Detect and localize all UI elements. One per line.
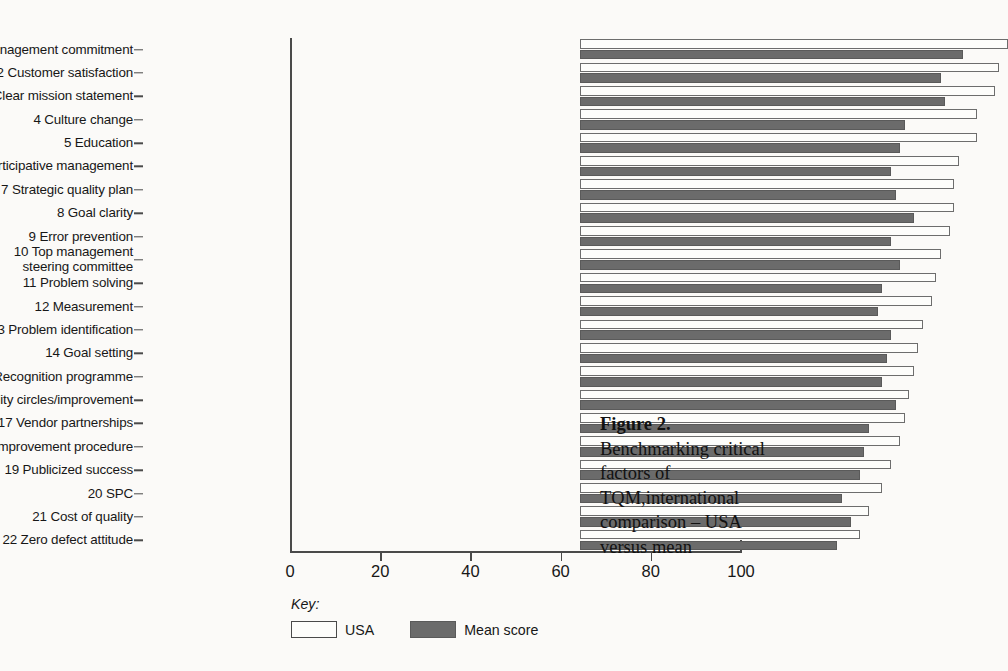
bar-usa [580, 273, 936, 283]
category-label: 3 Clear mission statement [0, 89, 133, 104]
category-label: 19 Publicized success [4, 463, 133, 478]
category-row: 16 Quality circles/improvement [290, 388, 741, 411]
category-tick-mark [134, 353, 143, 354]
category-label: 20 SPC [88, 486, 133, 501]
x-axis-tick-label: 80 [642, 562, 660, 581]
legend-title: Key: [291, 596, 574, 612]
category-label: 5 Education [64, 136, 133, 151]
bar-group [580, 38, 741, 61]
category-tick-mark [134, 516, 143, 517]
x-axis-tick [380, 551, 382, 561]
bar-group [580, 131, 741, 154]
bar-usa [580, 366, 914, 376]
bar-usa [580, 156, 959, 166]
category-tick-mark [134, 213, 143, 214]
category-tick-mark [134, 49, 143, 50]
bar-group [580, 318, 741, 341]
category-label: 11 Problem solving [23, 276, 133, 291]
bar-mean-score [580, 167, 891, 177]
category-row: 6 Participative management [290, 155, 741, 178]
bar-usa [580, 86, 995, 96]
category-row: 14 Goal setting [290, 342, 741, 365]
bar-mean-score [580, 120, 905, 130]
legend-label: Mean score [464, 622, 538, 638]
bar-group [580, 388, 741, 411]
bar-usa [580, 249, 941, 259]
category-row: 7 Strategic quality plan [290, 178, 741, 201]
category-label: 8 Goal clarity [57, 206, 133, 221]
category-row: 5 Education [290, 131, 741, 154]
bar-mean-score [580, 260, 900, 270]
category-row: 15 Recognition programme [290, 365, 741, 388]
category-row: 10 Top management steering committee [290, 248, 741, 271]
bar-usa [580, 179, 954, 189]
category-tick-mark [134, 493, 143, 494]
category-tick-mark [134, 376, 143, 377]
category-label: 10 Top management steering committee [14, 245, 133, 274]
bar-usa [580, 133, 977, 143]
category-label: 21 Cost of quality [32, 510, 133, 525]
bar-mean-score [580, 190, 896, 200]
category-row: 2 Customer satisfaction [290, 61, 741, 84]
legend-label: USA [345, 622, 374, 638]
bar-usa [580, 343, 918, 353]
bar-usa [580, 296, 932, 306]
category-tick-mark [134, 259, 143, 260]
bar-mean-score [580, 97, 945, 107]
category-row: 11 Problem solving [290, 272, 741, 295]
category-tick-mark [134, 283, 143, 284]
category-row: 1 Management commitment [290, 38, 741, 61]
x-axis-tick-label: 100 [727, 562, 755, 581]
bar-usa [580, 39, 1008, 49]
bar-group [580, 365, 741, 388]
category-row: 9 Error prevention [290, 225, 741, 248]
bar-usa [580, 390, 909, 400]
figure-caption-title: Figure 2. [600, 412, 790, 437]
x-axis-tick [470, 551, 472, 561]
category-tick-mark [134, 470, 143, 471]
category-label: 18 Project improvement procedure [0, 440, 133, 455]
bar-mean-score [580, 143, 900, 153]
bar-usa [580, 226, 950, 236]
x-axis-tick-label: 60 [551, 562, 569, 581]
bar-group [580, 61, 741, 84]
bar-mean-score [580, 307, 878, 317]
bar-group [580, 85, 741, 108]
category-label: 22 Zero defect attitude [2, 533, 133, 548]
bar-mean-score [580, 237, 891, 247]
bar-group [580, 295, 741, 318]
legend-gray-swatch [410, 621, 456, 638]
category-tick-mark [134, 306, 143, 307]
figure-caption: Figure 2. Benchmarking critical factors … [600, 412, 790, 559]
bar-mean-score [580, 50, 963, 60]
legend-items: USAMean score [291, 621, 574, 638]
category-label: 15 Recognition programme [0, 369, 133, 384]
figure-caption-body: Benchmarking critical factors of TQM,int… [600, 437, 790, 560]
category-label: 4 Culture change [33, 112, 133, 127]
category-row: 12 Measurement [290, 295, 741, 318]
category-tick-mark [134, 189, 143, 190]
bar-usa [580, 203, 954, 213]
bar-group [580, 225, 741, 248]
category-label: 16 Quality circles/improvement [0, 393, 133, 408]
bar-mean-score [580, 330, 891, 340]
bar-mean-score [580, 73, 941, 83]
category-tick-mark [134, 329, 143, 330]
category-label: 14 Goal setting [45, 346, 133, 361]
x-axis-tick [561, 551, 563, 561]
bar-usa [580, 320, 923, 330]
category-tick-mark [134, 446, 143, 447]
category-row: 4 Culture change [290, 108, 741, 131]
bar-mean-score [580, 354, 887, 364]
bar-group [580, 108, 741, 131]
x-axis-tick-label: 40 [461, 562, 479, 581]
chart-legend: Key: USAMean score [291, 596, 574, 638]
category-label: 2 Customer satisfaction [0, 66, 133, 81]
x-axis-tick-label: 0 [285, 562, 294, 581]
category-label: 1 Management commitment [0, 42, 133, 57]
category-label: 6 Participative management [0, 159, 133, 174]
bar-group [580, 248, 741, 271]
bar-usa [580, 63, 999, 73]
bar-group [580, 178, 741, 201]
